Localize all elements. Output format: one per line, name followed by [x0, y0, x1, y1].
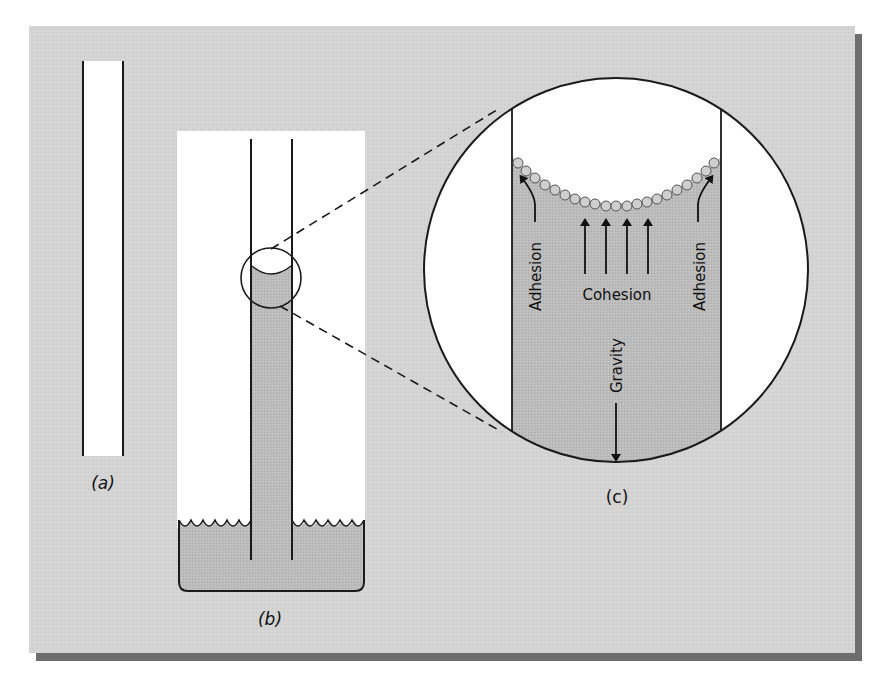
subfigure-a-empty-tube	[82, 61, 124, 456]
label-gravity: Gravity	[608, 338, 626, 393]
label-adhesion-right: Adhesion	[691, 242, 709, 311]
capillary-action-diagram: (a) (b)	[0, 0, 893, 690]
label-a: (a)	[91, 473, 115, 493]
label-c: (c)	[606, 487, 629, 507]
label-b: (b)	[258, 609, 282, 629]
subfigure-b-tube-in-beaker	[177, 131, 365, 591]
label-adhesion-left: Adhesion	[527, 242, 545, 311]
label-cohesion: Cohesion	[582, 286, 651, 304]
